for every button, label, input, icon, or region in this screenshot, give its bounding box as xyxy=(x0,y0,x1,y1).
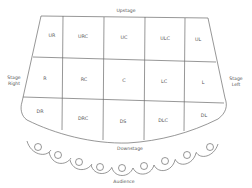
stage-left-label-line1: Stage xyxy=(229,76,242,81)
column-divider-3 xyxy=(144,17,145,140)
area-label: DL xyxy=(201,113,208,118)
upstage-label: Upstage xyxy=(116,8,135,13)
area-label: UC xyxy=(121,35,129,40)
stage-diagram: UR URC UC ULC UL R RC C LC L DR DRC DS D… xyxy=(0,0,252,188)
stage-right-label-line2: Right xyxy=(8,81,20,86)
area-label: DLC xyxy=(158,118,168,123)
area-label: DR xyxy=(36,109,44,114)
area-label: R xyxy=(43,76,47,81)
area-label: UL xyxy=(195,37,202,42)
row-divider-2 xyxy=(23,97,224,103)
area-label: URC xyxy=(78,34,89,39)
area-label: UR xyxy=(49,33,57,38)
area-label: DS xyxy=(120,119,127,124)
column-divider-4 xyxy=(184,18,185,131)
audience-label: Audience xyxy=(113,179,135,184)
downstage-label: Downstage xyxy=(117,146,143,151)
area-label: RC xyxy=(81,77,88,82)
stage-right-label-line1: Stage xyxy=(7,75,20,80)
row-divider-1 xyxy=(33,57,216,62)
area-label: DRC xyxy=(78,116,89,121)
column-divider-1 xyxy=(62,16,63,130)
area-label: C xyxy=(122,78,126,83)
column-divider-2 xyxy=(103,17,104,140)
area-label: LC xyxy=(161,79,168,84)
stage-left-label-line2: Left xyxy=(232,82,241,87)
area-label: L xyxy=(202,80,205,85)
area-label: ULC xyxy=(160,36,170,41)
